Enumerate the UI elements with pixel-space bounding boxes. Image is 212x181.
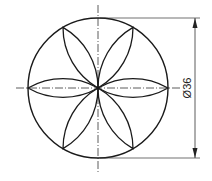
arrowhead-bottom [193, 148, 198, 158]
diameter-dimension-label: Ø36 [181, 78, 193, 99]
arrowhead-top [193, 18, 198, 28]
technical-drawing: Ø36 [0, 0, 212, 181]
